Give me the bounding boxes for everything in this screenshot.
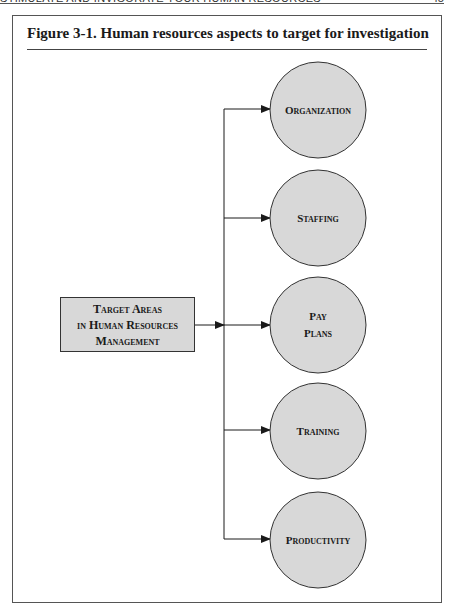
source-line-3: Management xyxy=(61,333,194,349)
target-label: Productivity xyxy=(268,532,368,549)
target-label: Organization xyxy=(268,102,368,119)
target-label: Staffing xyxy=(268,210,368,227)
target-label: Training xyxy=(268,423,368,440)
target-staffing: Staffing xyxy=(268,210,368,227)
source-box-target-areas: Target Areas in Human Resources Manageme… xyxy=(60,297,195,352)
target-training: Training xyxy=(268,423,368,440)
target-organization: Organization xyxy=(268,102,368,119)
target-productivity: Productivity xyxy=(268,532,368,549)
target-label: Pay xyxy=(268,308,368,325)
source-line-2: in Human Resources xyxy=(61,317,194,333)
target-pay-plans: Pay Plans xyxy=(268,308,368,342)
source-line-1: Target Areas xyxy=(61,301,194,317)
target-label: Plans xyxy=(268,325,368,342)
